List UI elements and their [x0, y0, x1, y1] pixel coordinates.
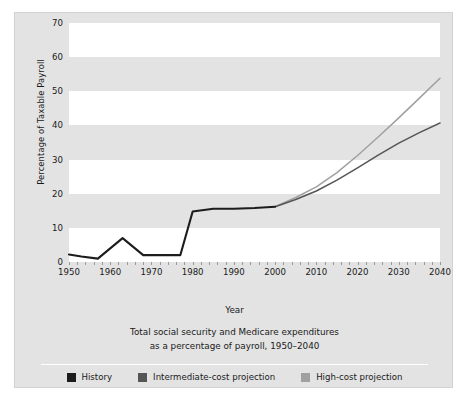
x-tick-mark	[333, 262, 334, 265]
x-tick-mark	[127, 262, 128, 265]
x-tick-mark	[300, 262, 301, 265]
x-tick-mark	[118, 262, 119, 265]
x-tick-mark	[77, 262, 78, 265]
x-tick-mark	[366, 262, 367, 265]
x-tick-label: 1960	[99, 267, 121, 277]
x-tick-label: 2030	[388, 267, 410, 277]
legend-swatch-icon	[67, 373, 76, 382]
chart-legend: HistoryIntermediate-cost projectionHigh-…	[15, 372, 454, 382]
x-tick-mark	[259, 262, 260, 265]
x-tick-mark	[85, 262, 86, 265]
x-tick-mark	[226, 262, 227, 265]
y-tick-label: 30	[52, 155, 63, 165]
x-tick-mark	[308, 262, 309, 265]
x-tick-mark	[391, 262, 392, 265]
x-tick-label: 1970	[141, 267, 163, 277]
legend-label: History	[82, 372, 113, 382]
x-tick-mark	[316, 262, 317, 265]
x-tick-mark	[94, 262, 95, 265]
legend-label: High-cost projection	[316, 372, 402, 382]
x-tick-mark	[69, 262, 70, 265]
x-tick-label: 2020	[347, 267, 369, 277]
x-tick-label: 2040	[429, 267, 451, 277]
y-tick-label: 40	[52, 120, 63, 130]
x-tick-mark	[160, 262, 161, 265]
x-tick-mark	[283, 262, 284, 265]
x-tick-mark	[193, 262, 194, 265]
series-line	[69, 207, 275, 259]
caption-line-1: Total social security and Medicare expen…	[15, 326, 454, 340]
x-tick-mark	[415, 262, 416, 265]
legend-item[interactable]: Intermediate-cost projection	[138, 372, 275, 382]
y-tick-label: 20	[52, 189, 63, 199]
x-tick-mark	[292, 262, 293, 265]
y-tick-label: 10	[52, 223, 63, 233]
x-tick-label: 1950	[58, 267, 80, 277]
x-tick-mark	[399, 262, 400, 265]
x-tick-mark	[341, 262, 342, 265]
series-lines	[69, 23, 440, 262]
x-tick-label: 1990	[223, 267, 245, 277]
x-tick-mark	[250, 262, 251, 265]
x-tick-mark	[168, 262, 169, 265]
x-tick-mark	[234, 262, 235, 265]
legend-swatch-icon	[138, 373, 147, 382]
x-tick-mark	[201, 262, 202, 265]
legend-label: Intermediate-cost projection	[153, 372, 275, 382]
caption-line-2: as a percentage of payroll, 1950–2040	[15, 340, 454, 354]
x-tick-label: 2010	[305, 267, 327, 277]
y-tick-label: 0	[58, 257, 63, 267]
x-tick-mark	[267, 262, 268, 265]
y-tick-label: 70	[52, 18, 63, 28]
y-tick-label: 50	[52, 86, 63, 96]
legend-item[interactable]: History	[67, 372, 113, 382]
x-tick-mark	[407, 262, 408, 265]
chart-figure: Percentage of Taxable Payroll 0102030405…	[14, 12, 453, 388]
x-tick-mark	[135, 262, 136, 265]
x-tick-mark	[184, 262, 185, 265]
legend-divider	[41, 364, 428, 365]
series-line	[275, 123, 440, 207]
x-tick-label: 1980	[182, 267, 204, 277]
x-tick-mark	[358, 262, 359, 265]
legend-item[interactable]: High-cost projection	[301, 372, 402, 382]
chart-caption: Total social security and Medicare expen…	[15, 326, 454, 353]
x-tick-mark	[325, 262, 326, 265]
y-tick-label: 60	[52, 52, 63, 62]
plot-wrapper: Percentage of Taxable Payroll 0102030405…	[15, 13, 454, 283]
x-tick-mark	[176, 262, 177, 265]
series-line	[275, 78, 440, 206]
y-axis-title: Percentage of Taxable Payroll	[36, 22, 46, 222]
x-tick-mark	[374, 262, 375, 265]
x-tick-mark	[440, 262, 441, 265]
legend-swatch-icon	[301, 373, 310, 382]
x-tick-mark	[424, 262, 425, 265]
plot-area: 010203040506070 195019601970198019902000…	[69, 23, 440, 262]
x-tick-mark	[275, 262, 276, 265]
x-tick-mark	[432, 262, 433, 265]
x-tick-mark	[151, 262, 152, 265]
x-tick-mark	[110, 262, 111, 265]
x-axis-title: Year	[15, 305, 454, 315]
x-tick-mark	[242, 262, 243, 265]
x-tick-mark	[143, 262, 144, 265]
x-tick-mark	[217, 262, 218, 265]
x-tick-mark	[209, 262, 210, 265]
x-tick-mark	[382, 262, 383, 265]
x-tick-label: 2000	[264, 267, 286, 277]
x-tick-mark	[349, 262, 350, 265]
x-tick-mark	[102, 262, 103, 265]
